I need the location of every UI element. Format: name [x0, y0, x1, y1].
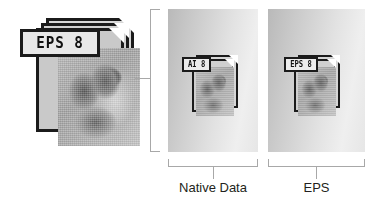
grouping-bracket-eps	[268, 159, 365, 167]
caption-eps: EPS	[268, 180, 365, 195]
bracket-tick-native-data	[213, 167, 214, 179]
file-format-tag-label: AI 8	[188, 61, 205, 69]
page-fold-icon	[225, 59, 234, 68]
file-format-tag: EPS 8	[20, 29, 100, 57]
file-format-tag: EPS 8	[284, 57, 318, 72]
portrait-thumbnail	[58, 48, 140, 146]
page-fold-icon	[109, 28, 124, 43]
file-format-tag-label: EPS 8	[36, 36, 84, 51]
grouping-bracket-left	[150, 9, 160, 152]
file-format-tag: AI 8	[182, 57, 211, 72]
diagram-canvas: EPS 8 AI 8 EPS 8	[0, 0, 384, 204]
eps-file-icon-large: EPS 8	[20, 14, 138, 134]
panel-native-data: AI 8	[168, 9, 258, 152]
page-fold-icon	[327, 59, 336, 68]
connector-tick	[135, 78, 151, 79]
grouping-bracket-native-data	[168, 159, 258, 167]
bracket-tick-eps	[316, 167, 317, 179]
portrait-thumbnail	[196, 67, 234, 116]
eps-file-icon-small: EPS 8	[294, 55, 350, 115]
panel-eps: EPS 8	[268, 9, 365, 152]
portrait-thumbnail	[298, 67, 336, 116]
file-format-tag-label: EPS 8	[290, 61, 312, 69]
ai-file-icon: AI 8	[192, 55, 248, 115]
caption-native-data: Native Data	[168, 180, 258, 195]
